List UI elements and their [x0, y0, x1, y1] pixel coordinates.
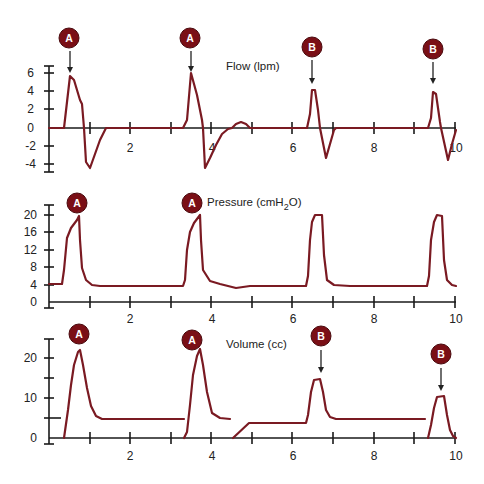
volume-trace-2	[184, 349, 230, 438]
volume-x-tick: 4	[209, 449, 216, 463]
flow-y-tick: 6	[27, 66, 34, 80]
marker-a-pressure-2: A	[182, 193, 202, 213]
svg-text:A: A	[75, 328, 83, 340]
pressure-x-tick: 10	[449, 312, 463, 326]
marker-b-flow-2: B	[423, 39, 443, 84]
svg-text:B: B	[317, 330, 325, 342]
pressure-y-tick: 16	[24, 225, 38, 239]
flow-trace	[49, 73, 456, 168]
volume-y-tick: 10	[24, 391, 38, 405]
pressure-y-tick: 4	[30, 278, 37, 292]
svg-text:B: B	[429, 43, 437, 55]
volume-x-tick: 2	[127, 449, 134, 463]
marker-a-volume-2: A	[182, 330, 202, 350]
pressure-y-tick: 0	[30, 295, 37, 309]
marker-b-volume-1: B	[311, 326, 331, 373]
flow-y-tick: 0	[27, 121, 34, 135]
flow-y-tick: 2	[27, 102, 34, 116]
pressure-panel: 20 16 12 8 4 0 2 4 6 8 10 Pressure (cmH2…	[24, 193, 463, 326]
volume-trace-4	[428, 396, 456, 438]
volume-x-tick: 8	[371, 449, 378, 463]
pressure-title: Pressure (cmH2O)	[207, 196, 302, 212]
volume-panel: 20 10 0 2 4 6 8 10 Volume (cc) A A	[24, 324, 463, 463]
marker-b-flow-1: B	[302, 37, 322, 84]
svg-text:A: A	[73, 197, 81, 209]
flow-x-tick: 6	[290, 141, 297, 155]
volume-trace-1	[64, 350, 184, 438]
svg-text:A: A	[186, 32, 194, 44]
flow-title: Flow (lpm)	[226, 60, 280, 72]
svg-text:A: A	[188, 334, 196, 346]
volume-title: Volume (cc)	[226, 338, 287, 350]
flow-x-tick: 2	[127, 141, 134, 155]
pressure-x-tick: 8	[371, 312, 378, 326]
pressure-y-tick: 20	[24, 208, 38, 222]
svg-text:A: A	[65, 32, 73, 44]
flow-y-tick: -2	[25, 139, 36, 153]
flow-y-tick: 4	[27, 84, 34, 98]
volume-y-tick: 20	[24, 351, 38, 365]
pressure-trace	[49, 215, 456, 288]
flow-x-tick: 8	[371, 141, 378, 155]
svg-text:A: A	[188, 197, 196, 209]
ventilator-waveforms-figure: 6 4 2 0 -2 -4 2 4 6 8 10 Flow (lpm) A	[0, 0, 484, 484]
pressure-y-tick: 12	[24, 243, 38, 257]
volume-trace-3	[233, 379, 425, 438]
marker-a-flow-1: A	[59, 28, 79, 73]
pressure-x-tick: 4	[209, 312, 216, 326]
volume-y-tick: 0	[30, 431, 37, 445]
flow-y-tick: -4	[25, 157, 36, 171]
flow-panel: 6 4 2 0 -2 -4 2 4 6 8 10 Flow (lpm) A	[25, 28, 463, 172]
volume-x-tick: 6	[290, 449, 297, 463]
pressure-y-tick: 8	[30, 260, 37, 274]
marker-a-volume-1: A	[69, 324, 89, 344]
svg-text:B: B	[308, 41, 316, 53]
svg-text:B: B	[437, 348, 445, 360]
marker-a-flow-2: A	[180, 28, 200, 72]
marker-a-pressure-1: A	[67, 193, 87, 213]
pressure-x-tick: 6	[290, 312, 297, 326]
volume-x-tick: 10	[449, 449, 463, 463]
pressure-x-tick: 2	[127, 312, 134, 326]
marker-b-volume-2: B	[431, 344, 451, 391]
